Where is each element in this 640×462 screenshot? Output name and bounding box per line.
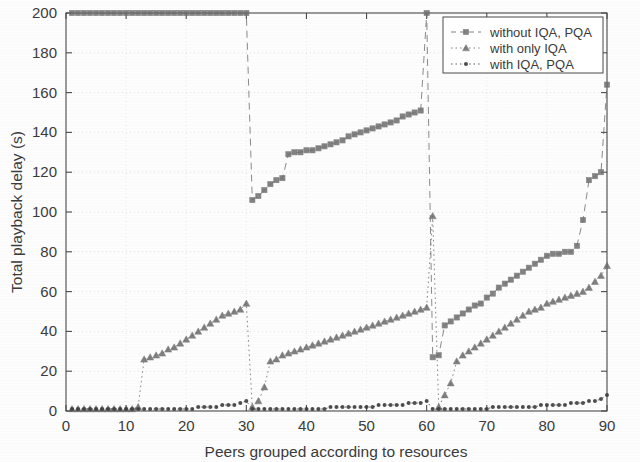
data-point-marker	[508, 277, 513, 282]
data-point-marker	[502, 281, 507, 286]
data-point-marker	[298, 407, 302, 411]
data-point-marker	[177, 340, 184, 346]
series-2	[69, 212, 611, 411]
data-point-marker	[359, 405, 363, 409]
series-line	[72, 395, 607, 409]
data-point-marker	[280, 176, 285, 181]
data-point-marker	[425, 399, 429, 403]
data-point-marker	[280, 407, 284, 411]
data-point-marker	[496, 285, 501, 290]
data-point-marker	[513, 316, 520, 322]
data-point-marker	[130, 10, 135, 15]
data-point-marker	[447, 380, 454, 386]
data-point-marker	[304, 407, 308, 411]
data-point-marker	[202, 405, 206, 409]
y-axis-label: Total playback delay (s)	[8, 131, 25, 293]
data-point-marker	[207, 320, 214, 326]
y-tick-label: 180	[32, 44, 57, 61]
data-point-marker	[196, 405, 200, 409]
data-point-marker	[430, 355, 435, 360]
data-point-marker	[545, 403, 549, 407]
data-point-marker	[387, 316, 394, 322]
data-point-marker	[586, 178, 591, 183]
data-point-marker	[406, 112, 411, 117]
figure-page: 0204060801001201401601802000102030405060…	[0, 0, 640, 462]
data-point-marker	[184, 407, 188, 411]
data-point-marker	[605, 393, 609, 397]
data-point-marker	[208, 405, 212, 409]
y-tick-label: 0	[49, 402, 57, 419]
x-axis-label: Peers grouped according to resources	[205, 443, 468, 460]
data-point-marker	[273, 356, 280, 362]
data-point-marker	[286, 407, 290, 411]
data-point-marker	[124, 10, 129, 15]
data-point-marker	[238, 10, 243, 15]
data-point-marker	[557, 403, 561, 407]
data-point-marker	[105, 10, 110, 15]
data-point-marker	[485, 407, 489, 411]
data-point-marker	[243, 300, 250, 306]
x-tick-label: 80	[539, 417, 556, 434]
data-point-marker	[389, 403, 393, 407]
data-point-marker	[75, 10, 80, 15]
data-point-marker	[118, 10, 123, 15]
data-point-marker	[515, 405, 519, 409]
data-point-marker	[341, 405, 345, 409]
data-point-marker	[172, 407, 176, 411]
data-point-marker	[562, 249, 567, 254]
data-point-marker	[400, 114, 405, 119]
data-point-marker	[569, 401, 573, 405]
data-point-marker	[597, 272, 604, 278]
data-point-marker	[256, 407, 260, 411]
y-tick-label: 60	[40, 283, 57, 300]
data-point-marker	[491, 405, 495, 409]
data-point-marker	[292, 150, 297, 155]
data-point-marker	[190, 10, 195, 15]
data-point-marker	[424, 10, 429, 15]
x-tick-label: 50	[358, 417, 375, 434]
data-point-marker	[418, 108, 423, 113]
data-point-marker	[405, 310, 412, 316]
data-point-marker	[81, 10, 86, 15]
data-point-marker	[539, 403, 543, 407]
data-point-marker	[593, 399, 597, 403]
data-point-marker	[279, 352, 286, 358]
legend-label-1: without IQA, PQA	[489, 25, 592, 40]
data-point-marker	[118, 407, 122, 411]
x-tick-label: 40	[298, 417, 315, 434]
data-point-marker	[335, 405, 339, 409]
data-point-marker	[581, 401, 585, 405]
data-point-marker	[148, 407, 152, 411]
data-point-marker	[448, 319, 453, 324]
data-point-marker	[598, 170, 603, 175]
data-point-marker	[538, 257, 543, 262]
data-point-marker	[501, 324, 508, 330]
data-point-marker	[585, 284, 592, 290]
data-point-marker	[388, 120, 393, 125]
data-point-marker	[339, 332, 346, 338]
data-point-marker	[225, 310, 232, 316]
data-point-marker	[165, 346, 172, 352]
data-point-marker	[455, 407, 459, 411]
data-point-marker	[100, 407, 104, 411]
data-point-marker	[147, 354, 154, 360]
legend-label-2: with only IQA	[489, 41, 567, 56]
data-point-marker	[124, 407, 128, 411]
data-point-marker	[268, 407, 272, 411]
data-point-marker	[87, 10, 92, 15]
data-point-marker	[316, 407, 320, 411]
data-point-marker	[599, 397, 603, 401]
y-tick-label: 100	[32, 203, 57, 220]
data-point-marker	[237, 306, 244, 312]
x-tick-label: 60	[418, 417, 435, 434]
data-point-marker	[401, 403, 405, 407]
data-point-marker	[532, 261, 537, 266]
data-point-marker	[555, 296, 562, 302]
legend-label-3: with IQA, PQA	[489, 57, 574, 72]
data-point-marker	[365, 405, 369, 409]
x-tick-label: 0	[62, 417, 70, 434]
data-point-marker	[477, 340, 484, 346]
data-point-marker	[159, 350, 166, 356]
y-tick-label: 140	[32, 123, 57, 140]
data-point-marker	[70, 407, 74, 411]
